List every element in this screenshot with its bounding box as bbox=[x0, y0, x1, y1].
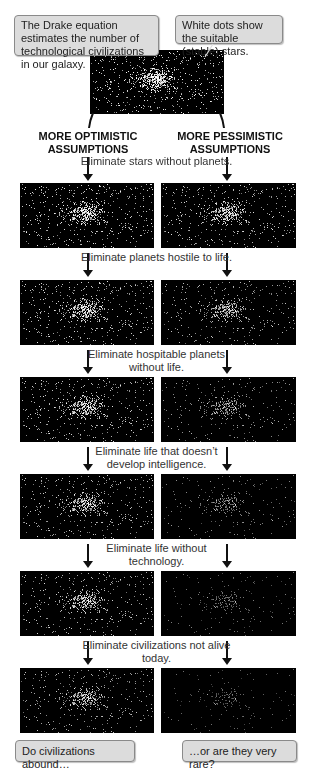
civilizations-abound-callout: Do civilizations abound… bbox=[15, 740, 135, 762]
star-canvas bbox=[161, 183, 296, 248]
optimistic-star-field bbox=[20, 280, 154, 345]
pessimistic-star-field bbox=[161, 571, 296, 636]
star-canvas bbox=[20, 183, 154, 248]
elimination-step: Eliminate life that doesn’t develop inte… bbox=[80, 445, 233, 471]
pessimistic-star-field bbox=[161, 280, 296, 345]
pessimistic-star-field bbox=[161, 377, 296, 442]
star-canvas bbox=[20, 668, 154, 733]
star-canvas bbox=[161, 474, 296, 539]
branch-lines bbox=[0, 110, 313, 130]
star-canvas bbox=[161, 668, 296, 733]
star-canvas bbox=[161, 377, 296, 442]
white-dots-text: White dots show the suitable (stable) st… bbox=[182, 19, 263, 57]
callout-pointer bbox=[200, 43, 220, 63]
optimistic-star-field bbox=[20, 474, 154, 539]
abound-text: Do civilizations abound… bbox=[22, 745, 95, 770]
pessimistic-star-field bbox=[161, 183, 296, 248]
star-canvas bbox=[20, 571, 154, 636]
drake-equation-callout: The Drake equation estimates the number … bbox=[14, 15, 159, 56]
elimination-step: Eliminate civilizations not alive today. bbox=[80, 639, 233, 665]
pessimistic-heading: MORE PESSIMISTIC ASSUMPTIONS bbox=[160, 130, 300, 156]
elimination-step: Eliminate planets hostile to life. bbox=[80, 251, 233, 264]
elimination-step: Eliminate life without technology. bbox=[80, 542, 233, 568]
very-rare-callout: …or are they very rare? bbox=[182, 740, 297, 762]
pessimistic-star-field bbox=[161, 474, 296, 539]
star-canvas bbox=[161, 571, 296, 636]
white-dots-callout: White dots show the suitable (stable) st… bbox=[175, 15, 283, 44]
optimistic-star-field bbox=[20, 377, 154, 442]
optimistic-star-field bbox=[20, 571, 154, 636]
elimination-step: Eliminate stars without planets. bbox=[80, 155, 233, 168]
star-canvas bbox=[20, 280, 154, 345]
optimistic-heading: MORE OPTIMISTIC ASSUMPTIONS bbox=[18, 130, 158, 156]
rare-text: …or are they very rare? bbox=[189, 745, 276, 770]
elimination-step: Eliminate hospitable planets without lif… bbox=[80, 348, 233, 374]
star-canvas bbox=[161, 280, 296, 345]
optimistic-star-field bbox=[20, 183, 154, 248]
optimistic-star-field bbox=[20, 668, 154, 733]
star-canvas bbox=[20, 474, 154, 539]
pessimistic-star-field bbox=[161, 668, 296, 733]
star-canvas bbox=[20, 377, 154, 442]
